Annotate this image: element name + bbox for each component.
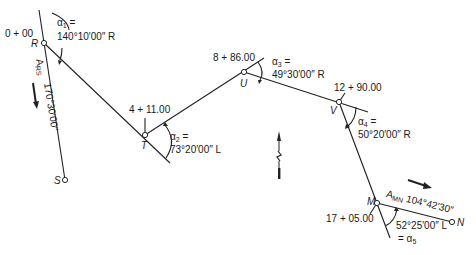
angle-arc-alpha4: [348, 107, 356, 126]
point-v-marker: [336, 99, 341, 104]
point-t-marker: [142, 132, 147, 137]
point-label-s: S: [54, 175, 61, 186]
point-label-u: U: [240, 78, 247, 89]
angle-arc-alpha1-b: [60, 48, 62, 60]
point-r-marker: [41, 40, 46, 45]
point-s-marker: [62, 177, 67, 182]
station-label-m: 17 + 05.00: [326, 213, 374, 224]
angle-value-alpha1: 140°10′00″ R: [57, 31, 115, 42]
arrowhead-alpha3: [258, 80, 262, 84]
angle-label-alpha5: = α5: [398, 233, 416, 247]
angle-value-alpha4: 50°20′00″ R: [358, 129, 411, 140]
line-rt: [44, 43, 170, 163]
angle-label-alpha4: α4 =: [358, 116, 376, 130]
point-n-marker: [449, 219, 454, 224]
point-label-t: T: [141, 140, 147, 151]
station-label-r: 0 + 00: [5, 28, 33, 39]
arrowhead-alpha1: [58, 60, 62, 65]
line-tu: [145, 58, 264, 135]
angle-label-alpha3: α3 =: [272, 56, 290, 70]
north-arrow-icon: [277, 131, 281, 179]
point-label-n: N: [457, 217, 464, 228]
station-label-t: 4 + 11.00: [129, 104, 170, 115]
angle-label-alpha2: α2 =: [170, 131, 188, 145]
angle-value-alpha2: 73°20′00″ L: [170, 144, 221, 155]
point-label-v: V: [330, 105, 337, 116]
point-label-m: M: [367, 196, 375, 207]
point-label-r: R: [31, 38, 38, 49]
angle-value-alpha3: 49°30′00″ R: [272, 69, 325, 80]
direction-arrow-rs: [33, 83, 39, 109]
azimuth-label-rs: ARS: [31, 58, 47, 76]
angle-label-alpha1: α1 =: [57, 17, 75, 31]
station-label-v: 12 + 90.00: [334, 82, 382, 93]
point-u-marker: [241, 69, 246, 74]
angle-value-alpha5: 52°25′00″ L: [396, 220, 447, 231]
station-label-u: 8 + 86.00: [213, 52, 255, 63]
direction-arrow-mn: [408, 180, 432, 189]
